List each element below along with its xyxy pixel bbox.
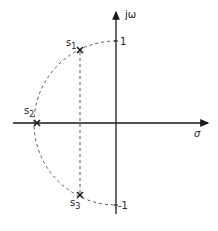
pole-label-s1: s1	[66, 37, 76, 51]
pole-label-s3: s3	[70, 197, 80, 211]
tick-label-pos: 1	[120, 36, 126, 47]
s-plane-diagram: jω σ 1 -1 s1 s2 s3	[0, 0, 218, 231]
imag-axis-label: jω	[124, 9, 136, 20]
tick-label-neg: -1	[118, 200, 128, 211]
real-axis-label: σ	[194, 128, 201, 139]
pole-label-s2: s2	[24, 105, 34, 119]
